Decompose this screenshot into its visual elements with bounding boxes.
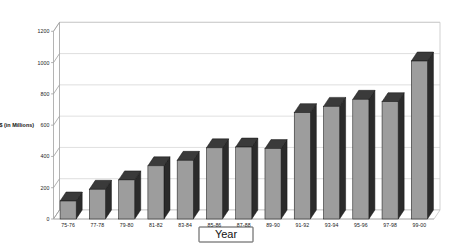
- x-axis-title: Year: [215, 228, 238, 240]
- bar-79-80: [119, 171, 141, 219]
- xtick-label-79-80: 79-80: [120, 222, 134, 228]
- xtick-label-83-84: 83-84: [178, 222, 192, 228]
- xtick-label-97-98: 97-98: [383, 222, 397, 228]
- bar-side-face: [340, 97, 346, 219]
- xtick-label-93-94: 93-94: [325, 222, 339, 228]
- xtick-label-95-96: 95-96: [354, 222, 368, 228]
- chart-canvas: 020040060080010001200$ (in Millions)75-7…: [0, 0, 457, 250]
- y-axis-label: $ (in Millions): [0, 122, 34, 128]
- ytick-label-800: 800: [41, 91, 50, 97]
- bar-chart: 020040060080010001200$ (in Millions)75-7…: [0, 0, 457, 250]
- xtick-label-81-82: 81-82: [149, 222, 163, 228]
- ytick-label-200: 200: [41, 185, 50, 191]
- ytick-label-1200: 1200: [38, 28, 50, 34]
- bar-95-96: [353, 90, 375, 219]
- bar-77-78: [89, 180, 111, 219]
- bar-97-98: [382, 93, 404, 219]
- ytick-label-1000: 1000: [38, 60, 50, 66]
- bar-front-face: [236, 147, 252, 219]
- bar-side-face: [369, 90, 375, 219]
- bar-front-face: [206, 148, 222, 219]
- bar-side-face: [223, 139, 229, 219]
- xtick-label-89-90: 89-90: [266, 222, 280, 228]
- bar-front-face: [177, 160, 193, 219]
- bar-93-94: [324, 97, 346, 219]
- bar-81-82: [148, 157, 170, 219]
- bar-89-90: [265, 140, 287, 219]
- bar-side-face: [193, 151, 199, 219]
- bar-front-face: [382, 102, 398, 219]
- ytick-label-600: 600: [41, 122, 50, 128]
- bar-side-face: [427, 52, 433, 219]
- bar-99-00: [411, 52, 433, 219]
- bar-front-face: [294, 113, 310, 219]
- bar-front-face: [411, 61, 427, 219]
- bar-side-face: [252, 138, 258, 219]
- bar-83-84: [177, 151, 199, 219]
- bar-front-face: [119, 180, 135, 219]
- bar-front-face: [60, 201, 76, 219]
- bar-front-face: [353, 99, 369, 219]
- bar-front-face: [89, 189, 105, 219]
- bar-front-face: [148, 166, 164, 219]
- bar-front-face: [324, 106, 340, 219]
- bar-side-face: [398, 93, 404, 219]
- bar-85-86: [206, 139, 228, 219]
- bar-91-92: [294, 104, 316, 219]
- bar-87-88: [236, 138, 258, 219]
- xtick-label-99-00: 99-00: [412, 222, 426, 228]
- xtick-label-75-76: 75-76: [61, 222, 75, 228]
- ytick-label-400: 400: [41, 153, 50, 159]
- xtick-label-77-78: 77-78: [91, 222, 105, 228]
- bar-side-face: [164, 157, 170, 219]
- bar-75-76: [60, 192, 82, 219]
- xtick-label-91-92: 91-92: [295, 222, 309, 228]
- ytick-label-0: 0: [47, 216, 50, 222]
- bar-front-face: [265, 149, 281, 219]
- bar-side-face: [310, 104, 316, 219]
- bar-side-face: [281, 140, 287, 219]
